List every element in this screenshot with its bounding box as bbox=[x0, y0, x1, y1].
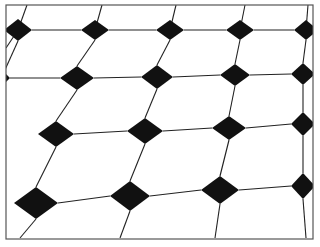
octagon-diamond-tiling bbox=[0, 0, 320, 247]
